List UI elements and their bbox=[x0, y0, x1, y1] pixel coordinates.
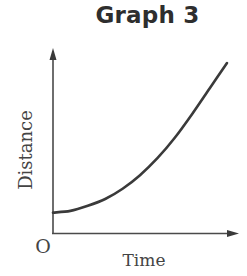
distance-curve bbox=[53, 63, 227, 213]
x-axis-label: Time bbox=[123, 250, 166, 270]
y-axis-arrow-icon bbox=[50, 48, 57, 60]
origin-label: O bbox=[35, 235, 51, 257]
y-axis-label: Distance bbox=[15, 110, 36, 190]
x-axis-arrow-icon bbox=[227, 230, 239, 237]
